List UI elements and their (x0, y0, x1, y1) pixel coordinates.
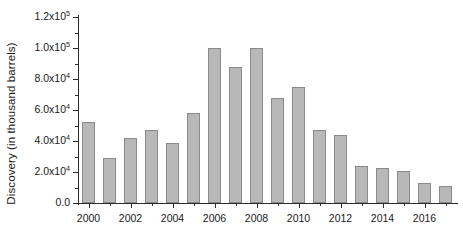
x-tick-mark-2013 (362, 203, 363, 206)
x-tick-label-2000: 2000 (77, 212, 100, 224)
x-tick-mark-2014 (383, 203, 384, 208)
x-axis-line (78, 203, 458, 204)
x-tick-mark-2012 (341, 203, 342, 208)
x-tick-label-2010: 2010 (287, 212, 310, 224)
plot-area: 0.02.0x1044.0x1046.0x1048.0x1041.0x1051.… (78, 17, 456, 203)
bar-2005 (187, 113, 200, 203)
bar-2016 (418, 183, 431, 203)
y-tick-mark (73, 203, 78, 204)
bar-2007 (229, 67, 242, 203)
bar-2013 (355, 166, 368, 203)
x-tick-mark-2000 (89, 203, 90, 208)
y-tick-mark (73, 110, 78, 111)
bar-2011 (313, 130, 326, 203)
x-tick-mark-2017 (446, 203, 447, 206)
x-tick-label-2004: 2004 (161, 212, 184, 224)
x-tick-mark-2008 (257, 203, 258, 208)
y-tick-mark (75, 126, 78, 127)
x-tick-mark-2010 (299, 203, 300, 208)
bar-2001 (103, 158, 116, 203)
x-tick-label-2016: 2016 (413, 212, 436, 224)
y-tick-mark (75, 33, 78, 34)
y-tick-mark (75, 157, 78, 158)
bar-chart: Discovery (in thousand barrels) 0.02.0x1… (0, 0, 463, 247)
x-tick-label-2012: 2012 (329, 212, 352, 224)
bar-2003 (145, 130, 158, 203)
y-tick-mark (73, 48, 78, 49)
y-tick-mark (75, 64, 78, 65)
y-tick-label: 1.0x105 (34, 41, 70, 53)
bar-2000 (82, 122, 95, 203)
y-tick-mark (75, 188, 78, 189)
y-tick-mark (73, 17, 78, 18)
x-tick-mark-2009 (278, 203, 279, 206)
x-tick-label-2002: 2002 (119, 212, 142, 224)
bar-2009 (271, 98, 284, 203)
bar-2010 (292, 87, 305, 203)
y-tick-label: 2.0x104 (34, 165, 70, 177)
bar-2012 (334, 135, 347, 203)
x-tick-mark-2011 (320, 203, 321, 206)
x-tick-mark-2006 (215, 203, 216, 208)
x-tick-label-2008: 2008 (245, 212, 268, 224)
bar-2014 (376, 168, 389, 203)
x-tick-mark-2002 (131, 203, 132, 208)
x-tick-label-2014: 2014 (371, 212, 394, 224)
x-tick-mark-2004 (173, 203, 174, 208)
bar-2015 (397, 171, 410, 203)
x-tick-mark-2016 (425, 203, 426, 208)
y-tick-label: 4.0x104 (34, 134, 70, 146)
bar-2006 (208, 48, 221, 203)
bar-2017 (439, 186, 452, 203)
bar-2002 (124, 138, 137, 203)
x-tick-mark-2003 (152, 203, 153, 206)
x-tick-mark-2005 (194, 203, 195, 206)
bar-2008 (250, 48, 263, 203)
x-tick-mark-2007 (236, 203, 237, 206)
y-tick-label: 6.0x104 (34, 103, 70, 115)
y-tick-mark (73, 141, 78, 142)
y-tick-label: 1.2x105 (34, 10, 70, 22)
y-tick-mark (73, 172, 78, 173)
y-tick-mark (75, 95, 78, 96)
bar-2004 (166, 143, 179, 203)
y-tick-label: 8.0x104 (34, 72, 70, 84)
x-tick-mark-2015 (404, 203, 405, 206)
y-tick-mark (73, 79, 78, 80)
x-tick-mark-2001 (110, 203, 111, 206)
x-tick-label-2006: 2006 (203, 212, 226, 224)
y-tick-label: 0.0 (55, 196, 70, 208)
y-axis-title: Discovery (in thousand barrels) (0, 0, 22, 247)
